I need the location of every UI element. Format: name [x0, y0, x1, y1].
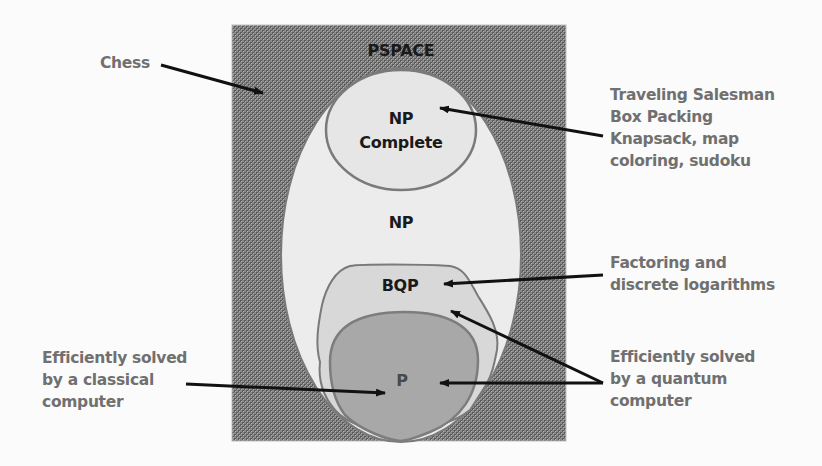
annotation-chess: Chess: [100, 52, 150, 74]
annotation-line: discrete logarithms: [610, 274, 775, 296]
annotation-line: computer: [610, 390, 755, 412]
np-label: NP: [376, 212, 426, 234]
annotation-quantum: Efficiently solved by a quantum computer: [610, 346, 755, 412]
annotation-line: Efficiently solved: [610, 346, 755, 368]
annotation-line: by a quantum: [610, 368, 755, 390]
annotation-line: Traveling Salesman: [610, 84, 775, 106]
annotation-line: Knapsack, map: [610, 128, 775, 150]
annotation-line: Efficiently solved: [42, 347, 187, 369]
annotation-np-complete-examples: Traveling Salesman Box Packing Knapsack,…: [610, 84, 775, 172]
np-complete-region: [326, 70, 476, 190]
p-label: P: [390, 370, 414, 392]
annotation-line: computer: [42, 391, 187, 413]
annotation-line: Factoring and: [610, 252, 775, 274]
pspace-label: PSPACE: [366, 40, 436, 62]
annotation-chess-line: Chess: [100, 52, 150, 74]
annotation-line: by a classical: [42, 369, 187, 391]
np-complete-label-line2: Complete: [351, 132, 451, 154]
bqp-label: BQP: [370, 275, 430, 297]
annotation-line: Box Packing: [610, 106, 775, 128]
np-complete-label-line1: NP: [361, 108, 441, 130]
annotation-line: coloring, sudoku: [610, 150, 775, 172]
annotation-bqp-examples: Factoring and discrete logarithms: [610, 252, 775, 296]
annotation-classical: Efficiently solved by a classical comput…: [42, 347, 187, 413]
